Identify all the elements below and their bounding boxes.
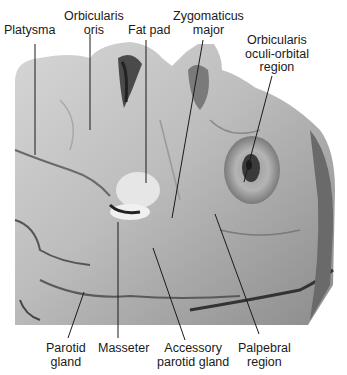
label-line: Zygomaticus xyxy=(173,10,244,24)
label-orbicularis-oculi: Orbicularis oculi-orbital region xyxy=(245,34,309,75)
label-palpebral-region: Palpebral region xyxy=(238,342,291,369)
label-line: Palpebral xyxy=(238,342,291,356)
label-line: gland xyxy=(46,356,86,370)
label-accessory-parotid: Accessory parotid gland xyxy=(157,342,229,369)
label-line: Accessory xyxy=(157,342,229,356)
label-line: region xyxy=(245,61,309,75)
label-orbicularis-oris: Orbicularis oris xyxy=(64,10,124,37)
label-fat-pad: Fat pad xyxy=(128,24,170,38)
label-line: Masseter xyxy=(98,342,149,356)
label-line: Orbicularis xyxy=(245,34,309,48)
label-parotid-gland: Parotid gland xyxy=(46,342,86,369)
label-line: parotid gland xyxy=(157,356,229,370)
label-line: Platysma xyxy=(4,24,55,38)
label-zygomaticus-major: Zygomaticus major xyxy=(173,10,244,37)
label-line: oris xyxy=(64,24,124,38)
label-line: region xyxy=(238,356,291,370)
label-platysma: Platysma xyxy=(4,24,55,38)
specimen-outline xyxy=(15,42,335,325)
label-line: major xyxy=(173,24,244,38)
label-line: Fat pad xyxy=(128,24,170,38)
label-line: oculi-orbital xyxy=(245,48,309,62)
label-line: Orbicularis xyxy=(64,10,124,24)
label-masseter: Masseter xyxy=(98,342,149,356)
label-line: Parotid xyxy=(46,342,86,356)
